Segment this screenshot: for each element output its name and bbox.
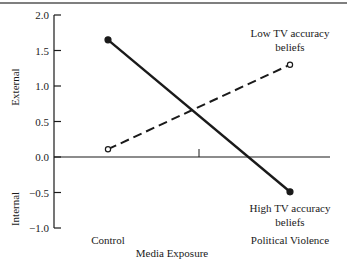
series-low-line <box>108 65 290 149</box>
y-tick-label: −1.0 <box>29 222 49 234</box>
y-tick-label: −0.5 <box>29 187 49 199</box>
series-label-high: beliefs <box>275 216 304 228</box>
open-point <box>287 62 292 67</box>
filled-point <box>287 189 293 195</box>
open-point <box>105 147 110 152</box>
y-axis-label-internal: Internal <box>9 192 21 226</box>
series-label-low: Low TV accuracy <box>250 27 330 39</box>
y-tick-label: 1.0 <box>35 80 49 92</box>
x-category-label: Political Violence <box>251 234 329 246</box>
filled-point <box>105 37 111 43</box>
interaction-line-chart: 2.01.51.00.50.0−0.5−1.0 ControlPolitical… <box>0 0 347 272</box>
series-group <box>105 37 293 195</box>
series-label-high: High TV accuracy <box>250 202 331 214</box>
y-tick-label: 2.0 <box>35 9 49 21</box>
y-tick-label: 1.5 <box>35 45 49 57</box>
series-label-low: beliefs <box>275 41 304 53</box>
y-tick-label: 0.0 <box>35 151 49 163</box>
y-axis-label-external: External <box>9 68 21 105</box>
y-tick-label: 0.5 <box>35 116 49 128</box>
series-high-line <box>108 40 290 192</box>
x-axis-title: Media Exposure <box>136 247 209 259</box>
labels-group: ControlPolitical ViolenceLow TV accuracy… <box>91 27 331 246</box>
x-category-label: Control <box>91 234 125 246</box>
